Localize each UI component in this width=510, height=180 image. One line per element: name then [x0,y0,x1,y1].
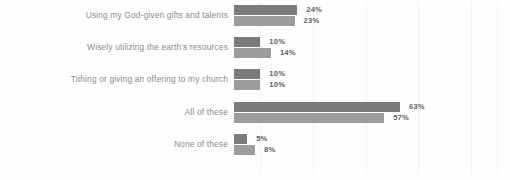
bar[interactable] [234,5,297,15]
chart-category-group: Using my God-given gifts and talents24%2… [0,0,510,30]
bar-value-label: 8% [264,145,275,155]
chart-category-group: All of these63%57% [0,97,510,127]
chart-category-group: None of these5%8% [0,129,510,159]
category-bars: 5%8% [234,129,510,159]
chart-category-group: Tithing or giving an offering to my chur… [0,64,510,94]
bar-value-label: 10% [269,37,285,47]
category-label: Using my God-given gifts and talents [86,0,228,30]
bar-value-label: 10% [269,69,285,79]
bar[interactable] [234,134,247,144]
bar[interactable] [234,69,260,79]
bar[interactable] [234,37,260,47]
bar-value-label: 10% [269,80,285,90]
category-label: All of these [185,97,228,127]
category-label: None of these [174,129,228,159]
category-bars: 10%14% [234,32,510,62]
bar[interactable] [234,80,260,90]
bar[interactable] [234,16,295,26]
bar-value-label: 63% [409,102,425,112]
category-label: Tithing or giving an offering to my chur… [71,64,228,94]
bar-chart: Using my God-given gifts and talents24%2… [0,0,510,180]
category-bars: 10%10% [234,64,510,94]
bar[interactable] [234,145,255,155]
category-bars: 63%57% [234,97,510,127]
chart-plot-area: Using my God-given gifts and talents24%2… [0,0,510,180]
bar[interactable] [234,102,400,112]
category-bars: 24%23% [234,0,510,30]
bar-value-label: 23% [304,16,320,26]
chart-category-group: Wisely utilizing the earth's resources10… [0,32,510,62]
bar-value-label: 5% [256,134,267,144]
category-label: Wisely utilizing the earth's resources [87,32,228,62]
bar[interactable] [234,113,384,123]
bar-value-label: 14% [280,48,296,58]
bar[interactable] [234,48,271,58]
bar-value-label: 57% [393,113,409,123]
bar-value-label: 24% [306,5,322,15]
